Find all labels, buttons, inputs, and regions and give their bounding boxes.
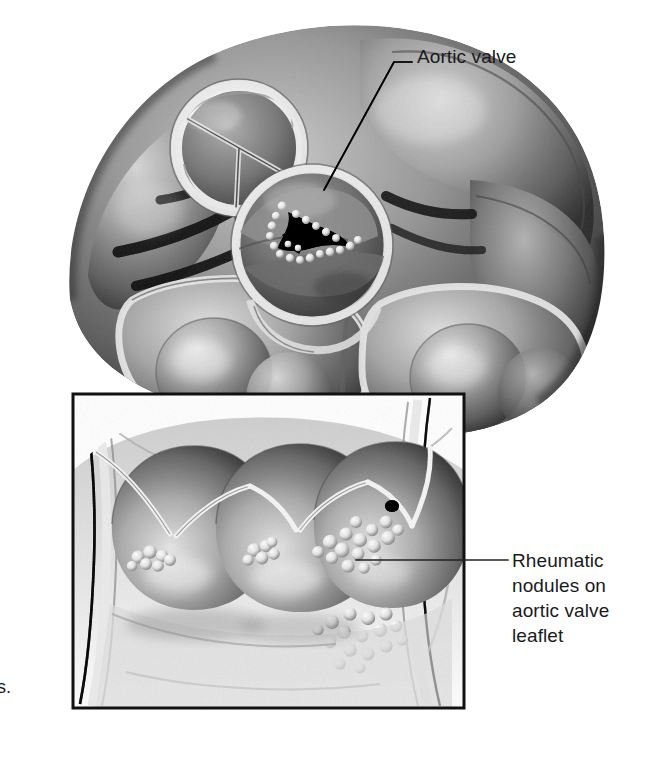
inset-leaflet-scene [73, 394, 470, 708]
illustration-page: Aortic valve Rheumatic nodules on aortic… [0, 0, 648, 765]
label-aortic-valve: Aortic valve [417, 44, 516, 69]
medical-illustration-figure [0, 0, 648, 765]
caption-text-fragment: s. [0, 676, 11, 698]
inset-detail-box [73, 394, 470, 708]
label-rheumatic-nodules: Rheumatic nodules on aortic valve leafle… [512, 548, 609, 648]
